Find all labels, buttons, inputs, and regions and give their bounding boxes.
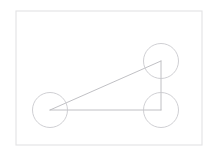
diagram-canvas <box>0 0 216 155</box>
page-background <box>0 0 216 155</box>
diagram-svg <box>0 0 216 155</box>
